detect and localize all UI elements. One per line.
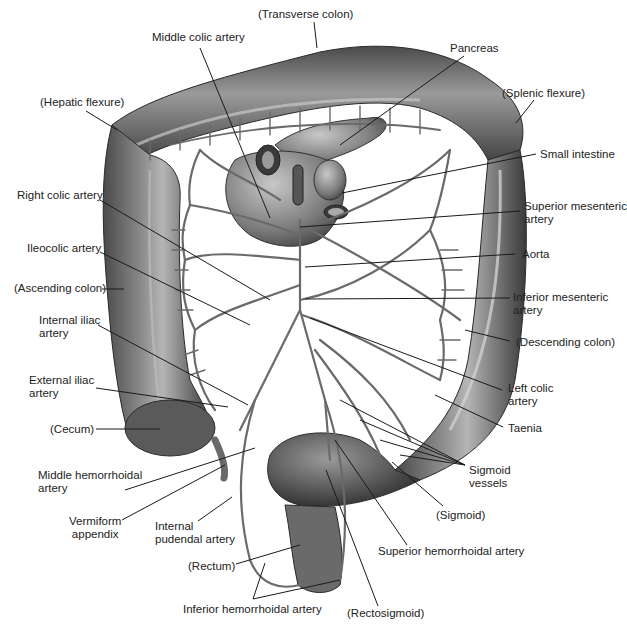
label-sigmoid: (Sigmoid) (436, 509, 485, 522)
label-ascending-colon: (Ascending colon) (14, 282, 106, 295)
label-left-colic-artery: Left colic artery (508, 382, 553, 408)
label-aorta: Aorta (522, 248, 550, 261)
label-right-colic-artery: Right colic artery (17, 189, 103, 202)
label-ileocolic-artery: Ileocolic artery (27, 242, 101, 255)
label-internal-iliac-artery: Internal iliac artery (39, 314, 100, 340)
leader-line-transverse-colon (314, 22, 317, 48)
label-vermiform-appendix: Vermiform appendix (69, 515, 121, 541)
label-external-iliac-artery: External iliac artery (29, 374, 94, 400)
label-splenic-flexure: (Splenic flexure) (502, 87, 585, 100)
label-descending-colon: (Descending colon) (516, 336, 615, 349)
label-internal-pudendal-artery: Internal pudendal artery (155, 520, 235, 546)
cecum-shape (125, 400, 215, 456)
leader-line-internal-pudendal-artery (198, 497, 232, 521)
label-inferior-hemorrhoidal-artery: Inferior hemorrhoidal artery (183, 603, 322, 616)
label-hepatic-flexure: (Hepatic flexure) (40, 96, 124, 109)
label-sigmoid-vessels: Sigmoid vessels (469, 464, 511, 490)
label-middle-hemorrhoidal-artery: Middle hemorrhoidal artery (38, 469, 142, 495)
descending-colon-shape (395, 150, 526, 480)
label-transverse-colon: (Transverse colon) (258, 8, 353, 21)
label-inferior-mesenteric-artery: Inferior mesenteric artery (513, 291, 608, 317)
label-pancreas: Pancreas (450, 42, 499, 55)
label-rectosigmoid: (Rectosigmoid) (347, 607, 424, 620)
leader-line-hepatic-flexure (86, 111, 117, 130)
label-taenia: Taenia (508, 422, 542, 435)
label-small-intestine: Small intestine (540, 148, 615, 161)
rectum-shape (285, 505, 342, 593)
label-cecum: (Cecum) (50, 423, 94, 436)
label-superior-hemorrhoidal-artery: Superior hemorrhoidal artery (378, 545, 524, 558)
label-rectum: (Rectum) (188, 560, 235, 573)
leader-line-rectum (236, 545, 300, 564)
label-superior-mesenteric-artery: Superior mesenteric artery (524, 200, 627, 226)
label-middle-colic-artery: Middle colic artery (152, 31, 245, 44)
